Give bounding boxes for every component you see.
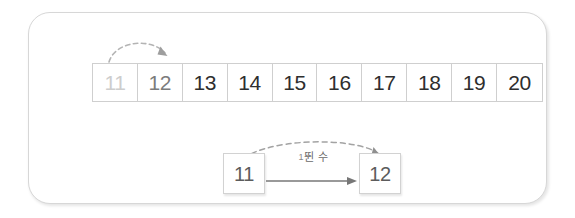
number-strip: 11 12 13 14 15 16 17 18 19 20	[92, 63, 543, 102]
number-cell[interactable]: 18	[407, 64, 452, 101]
number-cell[interactable]: 16	[317, 64, 362, 101]
number-cell[interactable]: 11	[93, 64, 138, 101]
jump-arrow-11-to-12	[105, 35, 177, 65]
number-cell[interactable]: 17	[362, 64, 407, 101]
equation-label-text: 뛴 수	[304, 151, 327, 163]
equation-from-box[interactable]: 11	[223, 153, 265, 194]
number-cell[interactable]: 19	[452, 64, 497, 101]
number-cell[interactable]: 20	[497, 64, 542, 101]
number-cell[interactable]: 12	[138, 64, 183, 101]
number-cell[interactable]: 14	[228, 64, 273, 101]
equation-arrow-icon	[265, 173, 361, 185]
number-cell[interactable]: 13	[183, 64, 228, 101]
number-cell[interactable]: 15	[273, 64, 318, 101]
equation-to-box[interactable]: 12	[359, 153, 401, 194]
equation-group: 11 1뛴 수 12	[219, 135, 409, 197]
diagram-card: 11 12 13 14 15 16 17 18 19 20 11 1뛴 수	[28, 12, 547, 204]
equation-label-lead: 1	[298, 152, 303, 162]
equation-operation-label: 1뛴 수	[265, 152, 361, 163]
